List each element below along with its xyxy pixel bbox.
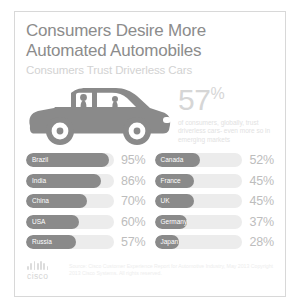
bar-value: 52% xyxy=(242,153,274,167)
stat-unit: % xyxy=(210,85,224,102)
bar-column-left: Brazil 95% India 86% China 70 xyxy=(26,153,146,256)
stat-value: 57 xyxy=(178,83,210,116)
bar-value: 60% xyxy=(114,215,146,229)
cisco-wordmark: cisco xyxy=(27,271,61,281)
bar-row: Canada 52% xyxy=(155,153,275,167)
bar-label: India xyxy=(32,174,46,188)
bar-value: 70% xyxy=(114,194,146,208)
bar-row: India 86% xyxy=(26,174,146,188)
bar-label: Russia xyxy=(32,235,52,249)
bar-row: Germany 37% xyxy=(155,215,275,229)
bar-track: Canada xyxy=(155,153,243,167)
bar-track: UK xyxy=(155,194,243,208)
bar-row: UK 45% xyxy=(155,194,275,208)
bar-row: USA 60% xyxy=(26,215,146,229)
cisco-logo: cisco xyxy=(27,261,61,281)
bar-value: 45% xyxy=(242,194,274,208)
cisco-bars-icon xyxy=(27,261,61,270)
bar-value: 28% xyxy=(242,235,274,249)
headline-statistic: 57% of consumers, globally, trust driver… xyxy=(178,78,286,144)
hero-section: 57% of consumers, globally, trust driver… xyxy=(26,78,274,148)
bar-label: Germany xyxy=(161,215,188,229)
bar-track: China xyxy=(26,194,114,208)
bar-value: 86% xyxy=(114,174,146,188)
page-subtitle: Consumers Trust Driverless Cars xyxy=(26,64,274,76)
bar-chart: Brazil 95% India 86% China 70 xyxy=(26,153,274,256)
bar-value: 45% xyxy=(242,174,274,188)
bar-value: 57% xyxy=(114,235,146,249)
footer: cisco Source: Cisco Customer Experience … xyxy=(26,261,274,281)
bar-row: China 70% xyxy=(26,194,146,208)
infographic-card: Consumers Desire More Automated Automobi… xyxy=(14,11,286,297)
bar-label: Canada xyxy=(161,153,184,167)
bar-track: Japan xyxy=(155,235,243,249)
stat-caption: of consumers, globally, trust driverless… xyxy=(178,119,286,144)
bar-label: Brazil xyxy=(32,153,48,167)
bar-track: Russia xyxy=(26,235,114,249)
bar-row: France 45% xyxy=(155,174,275,188)
bar-column-right: Canada 52% France 45% UK 45% xyxy=(155,153,275,256)
bar-track: Germany xyxy=(155,215,243,229)
driverless-car-icon xyxy=(24,82,174,146)
bar-label: China xyxy=(32,194,49,208)
stat-value-group: 57% xyxy=(178,78,286,116)
bar-track: USA xyxy=(26,215,114,229)
bar-track: Brazil xyxy=(26,153,114,167)
bar-label: USA xyxy=(32,215,45,229)
bar-track: India xyxy=(26,174,114,188)
bar-value: 37% xyxy=(242,215,274,229)
bar-row: Russia 57% xyxy=(26,235,146,249)
bar-label: France xyxy=(161,174,181,188)
bar-label: UK xyxy=(161,194,170,208)
bar-row: Brazil 95% xyxy=(26,153,146,167)
footer-source-note: Source: Cisco Customer Experience Report… xyxy=(69,261,274,276)
page-title: Consumers Desire More Automated Automobi… xyxy=(26,21,274,60)
bar-row: Japan 28% xyxy=(155,235,275,249)
bar-track: France xyxy=(155,174,243,188)
bar-value: 95% xyxy=(114,153,146,167)
bar-label: Japan xyxy=(161,235,179,249)
